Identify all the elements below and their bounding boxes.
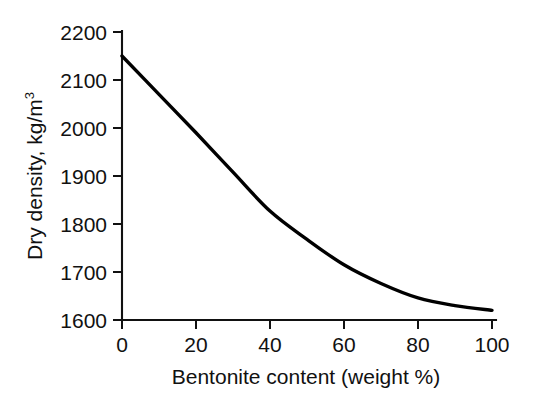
y-tick-label-2200: 2200 [60, 21, 107, 44]
x-tick-label-40: 40 [258, 333, 281, 356]
dry-density-vs-bentonite-chart: 1600 1700 1800 1900 2000 2100 2200 0 20 … [0, 0, 541, 406]
x-axis-title: Bentonite content (weight %) [172, 365, 441, 388]
y-tick-label-1600: 1600 [60, 309, 107, 332]
y-axis-title: Dry density, kg/m [23, 99, 46, 260]
y-tick-label-1700: 1700 [60, 261, 107, 284]
y-tick-label-2000: 2000 [60, 117, 107, 140]
svg-text:Dry density, kg/m3: Dry density, kg/m3 [22, 92, 46, 260]
x-tick-label-0: 0 [116, 333, 128, 356]
figure-canvas: 1600 1700 1800 1900 2000 2100 2200 0 20 … [0, 0, 541, 406]
y-axis-title-superscript: 3 [22, 92, 37, 99]
y-axis-title-group: Dry density, kg/m3 [22, 92, 46, 260]
x-tick-label-60: 60 [332, 333, 355, 356]
x-tick-label-80: 80 [406, 333, 429, 356]
x-tick-label-100: 100 [474, 333, 509, 356]
y-tick-label-1800: 1800 [60, 213, 107, 236]
x-tick-label-20: 20 [184, 333, 207, 356]
y-tick-label-1900: 1900 [60, 165, 107, 188]
y-tick-label-2100: 2100 [60, 69, 107, 92]
